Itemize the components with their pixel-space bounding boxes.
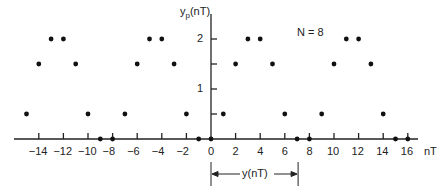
data-point [344, 37, 349, 42]
data-point [319, 112, 324, 117]
data-point [49, 37, 54, 42]
data-point [393, 137, 398, 142]
y-tick-label: 2 [197, 32, 203, 44]
data-point [73, 62, 78, 67]
data-point [270, 62, 275, 67]
data-points [24, 37, 410, 142]
data-point [356, 37, 361, 42]
data-point [123, 112, 128, 117]
data-point [307, 137, 312, 142]
y-axis-label-suffix: (nT) [190, 5, 210, 17]
data-point [135, 62, 140, 67]
data-point [36, 62, 41, 67]
x-tick-label: −4 [152, 145, 165, 157]
x-tick-label: 10 [327, 145, 339, 157]
n-annotation: N = 8 [297, 26, 324, 38]
data-point [233, 62, 238, 67]
data-point [196, 137, 201, 142]
data-point [258, 37, 263, 42]
data-point [332, 62, 337, 67]
x-tick-label: −6 [127, 145, 140, 157]
x-tick-label: 16 [401, 145, 413, 157]
x-tick-label: 14 [376, 145, 388, 157]
x-tick-label: 8 [306, 145, 312, 157]
x-tick-label: 0 [208, 145, 214, 157]
y-axis-label: yp(nT) [180, 5, 210, 20]
x-tick-label: −10 [78, 145, 97, 157]
x-axis-unit-label: nT [424, 145, 437, 157]
data-point [381, 112, 386, 117]
data-point [209, 137, 214, 142]
x-tick-label: −12 [53, 145, 72, 157]
x-tick-label: 2 [233, 145, 239, 157]
data-point [246, 37, 251, 42]
data-point [24, 112, 29, 117]
data-point [405, 137, 410, 142]
x-tick-label: 4 [257, 145, 263, 157]
periodic-sequence-chart [0, 0, 448, 192]
x-tick-label: 6 [282, 145, 288, 157]
x-tick-label: −8 [103, 145, 116, 157]
data-point [369, 62, 374, 67]
data-point [159, 37, 164, 42]
data-point [61, 37, 66, 42]
data-point [184, 112, 189, 117]
arrow-left-icon [212, 172, 218, 177]
data-point [86, 112, 91, 117]
x-tick-label: −14 [29, 145, 48, 157]
data-point [147, 37, 152, 42]
data-point [98, 137, 103, 142]
x-tick-label: −2 [176, 145, 189, 157]
data-point [221, 112, 226, 117]
arrow-right-icon [291, 172, 297, 177]
axes [14, 14, 418, 139]
data-point [172, 62, 177, 67]
data-point [110, 137, 115, 142]
data-point [295, 137, 300, 142]
y-tick-label: 1 [197, 82, 203, 94]
data-point [282, 112, 287, 117]
bracket-label: y(nT) [240, 167, 270, 179]
x-tick-label: 12 [352, 145, 364, 157]
